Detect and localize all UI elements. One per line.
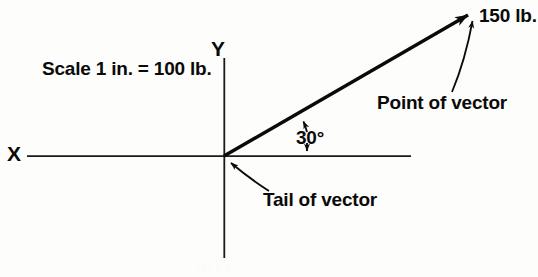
force-vector-arrow	[224, 15, 468, 156]
point-of-vector-leader	[452, 21, 473, 92]
tail-of-vector-label: Tail of vector	[263, 190, 377, 209]
angle-label: 30°	[296, 128, 324, 147]
diagram-canvas	[0, 0, 538, 277]
x-axis-label: X	[7, 143, 21, 164]
tail-of-vector-leader	[231, 163, 269, 191]
vector-diagram-figure: Scale 1 in. = 100 lb. Y X 30° 150 lb. Po…	[0, 0, 538, 277]
point-of-vector-label: Point of vector	[377, 93, 507, 112]
y-axis-label: Y	[211, 38, 225, 59]
vector-magnitude-label: 150 lb.	[479, 6, 537, 25]
figure-caption: Fig. 1-1	[196, 263, 230, 274]
scale-note-label: Scale 1 in. = 100 lb.	[42, 59, 212, 78]
